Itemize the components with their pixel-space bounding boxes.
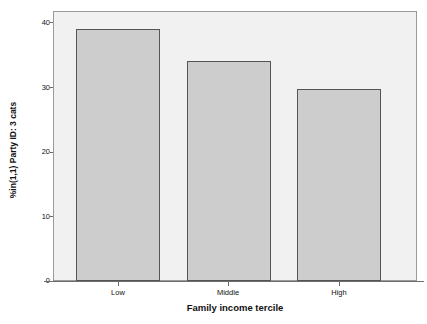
y-tick-label-10: 10: [28, 213, 50, 221]
bar-chart: %in(1,1) Party ID: 3 cats 40 30 20 10 0 …: [0, 0, 427, 324]
y-axis-tick-labels: 40 30 20 10 0: [22, 0, 50, 324]
x-tick-mark-middle: [228, 282, 229, 286]
y-axis-title: %in(1,1) Party ID: 3 cats: [6, 10, 20, 290]
x-tick-mark-low: [118, 282, 119, 286]
bar-high[interactable]: [297, 89, 381, 281]
x-tick-mark-high: [339, 282, 340, 286]
y-tick-label-40: 40: [28, 19, 50, 27]
bar-middle[interactable]: [187, 61, 271, 282]
bars-layer: [53, 11, 417, 281]
y-tick-label-20: 20: [28, 148, 50, 156]
x-axis-title: Family income tercile: [53, 302, 417, 314]
x-tick-label-low: Low: [76, 288, 160, 297]
x-tick-label-high: High: [297, 288, 381, 297]
bar-low[interactable]: [76, 29, 160, 281]
x-axis-line: [44, 281, 424, 282]
x-tick-label-middle: Middle: [186, 288, 270, 297]
y-tick-label-30: 30: [28, 84, 50, 92]
